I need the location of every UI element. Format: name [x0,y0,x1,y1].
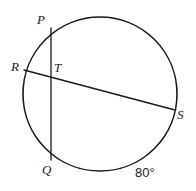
point-label-q: Q [42,163,51,176]
geometry-canvas [0,0,196,191]
chord-rs [24,70,175,110]
arc-measure-label: 80° [135,166,155,179]
point-label-t: T [54,61,61,74]
circle-outline [23,17,177,171]
geometry-figure: P R T S Q 80° [0,0,196,191]
point-label-p: P [37,13,45,26]
point-label-r: R [11,60,19,73]
point-label-s: S [177,108,184,121]
